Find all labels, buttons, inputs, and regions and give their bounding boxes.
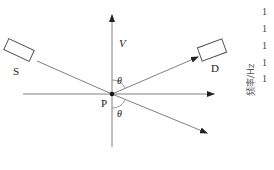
source-label: S — [13, 66, 19, 77]
detector-label: D — [211, 63, 219, 74]
frequency-axis-label: 频率/Hz — [244, 63, 257, 96]
angle-lower-label: θ — [117, 109, 122, 119]
axis-tick: 1 — [262, 7, 267, 17]
doppler-diagram: S D P V θ θ 1 1 1 1 1 频率/Hz — [0, 0, 274, 170]
detector-ray — [112, 57, 198, 94]
point-label: P — [101, 98, 107, 109]
axis-tick: 1 — [262, 24, 267, 34]
angle-arc-lower — [112, 100, 125, 108]
axis-tick: 1 — [262, 58, 267, 68]
velocity-label: V — [119, 38, 126, 49]
axis-tick: 1 — [262, 74, 267, 84]
detector-box — [197, 39, 226, 61]
point-p-dot — [110, 92, 115, 97]
axis-tick: 1 — [262, 41, 267, 51]
scattered-ray — [112, 94, 207, 133]
source-box — [4, 39, 34, 62]
angle-upper-label: θ — [117, 76, 122, 86]
diagram-graphics — [0, 0, 274, 170]
incident-line — [37, 61, 112, 94]
